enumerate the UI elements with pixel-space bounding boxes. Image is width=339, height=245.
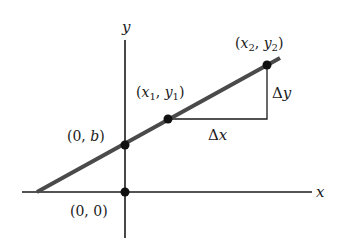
point-2-label: (x2, y2) [235, 35, 283, 53]
point-1 [164, 115, 173, 124]
point-2 [263, 61, 272, 70]
delta-y-label: Δy [272, 84, 292, 102]
intercept-point [121, 141, 130, 150]
slope-diagram: y x (0, 0) (0, b) (x1, y1) (x2, y2) Δx Δ… [0, 0, 339, 245]
y-axis-label: y [121, 18, 131, 36]
origin-label: (0, 0) [70, 203, 108, 219]
origin-point [121, 188, 130, 197]
intercept-label: (0, b) [67, 128, 105, 144]
graph-line [37, 58, 280, 192]
point-1-label: (x1, y1) [136, 84, 184, 102]
x-axis-label: x [316, 183, 325, 201]
delta-x-label: Δx [208, 126, 228, 144]
diagram-canvas: y x (0, 0) (0, b) (x1, y1) (x2, y2) Δx Δ… [0, 0, 339, 245]
